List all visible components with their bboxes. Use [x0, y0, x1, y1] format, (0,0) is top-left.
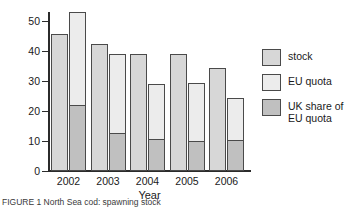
legend-item-uk-share[interactable]: UK share of EU quota: [262, 99, 361, 124]
y-tick-label-50: 50: [20, 15, 40, 27]
bar-stock-2004: [130, 54, 147, 171]
plot-area: [48, 14, 248, 171]
y-tick-label-20: 20: [20, 105, 40, 117]
x-tick-label-2002: 2002: [47, 175, 90, 187]
legend-swatch-eu-quota: [262, 74, 281, 91]
bar-stock-2002: [51, 34, 68, 171]
figure-caption: FIGURE 1 North Sea cod: spawning stock: [2, 197, 361, 207]
bar-eu-quota-2006: [227, 98, 244, 171]
legend-label-eu-quota: EU quota: [288, 74, 332, 88]
y-tick-label-10: 10: [20, 135, 40, 147]
bar-stock-2003: [91, 44, 108, 171]
bar-eu-quota-2003: [109, 54, 126, 171]
bar-uk-share-2003: [110, 133, 125, 170]
bar-eu-quota-2002: [69, 12, 86, 171]
bar-uk-share-2002: [70, 105, 85, 170]
legend-label-stock: stock: [288, 49, 313, 63]
bar-stock-2006: [209, 68, 226, 171]
figure-container: Thousand tonnes 0 10 20 30 40 50 2002200…: [0, 0, 361, 209]
bar-uk-share-2005: [189, 141, 204, 170]
y-tick-label-40: 40: [20, 45, 40, 57]
legend-label-uk-share: UK share of EU quota: [288, 99, 343, 124]
y-tick-label-30: 30: [20, 75, 40, 87]
legend-item-eu-quota[interactable]: EU quota: [262, 74, 361, 91]
bar-eu-quota-2005: [188, 83, 205, 171]
bar-stock-2005: [170, 54, 187, 171]
legend-swatch-uk-share: [262, 99, 281, 116]
y-tick-label-0: 0: [20, 165, 40, 177]
x-tick-label-2005: 2005: [166, 175, 209, 187]
bar-uk-share-2006: [228, 140, 243, 170]
x-tick-label-2004: 2004: [126, 175, 169, 187]
bar-uk-share-2004: [149, 139, 164, 170]
legend: stock EU quota UK share of EU quota: [262, 49, 361, 132]
x-tick-label-2006: 2006: [205, 175, 248, 187]
y-tick-0: [42, 171, 48, 172]
legend-swatch-stock: [262, 49, 281, 66]
bar-eu-quota-2004: [148, 84, 165, 171]
x-tick-label-2003: 2003: [87, 175, 130, 187]
legend-item-stock[interactable]: stock: [262, 49, 361, 66]
